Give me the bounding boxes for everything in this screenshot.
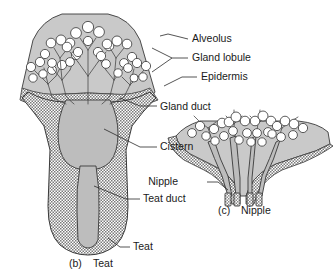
- alveolus: [102, 60, 111, 69]
- alveolus: [48, 59, 57, 68]
- alveolus: [35, 57, 44, 66]
- alveolus: [66, 58, 75, 67]
- alveolus: [195, 121, 204, 130]
- teat-duct-lumen: [77, 166, 99, 248]
- alveolus: [211, 137, 219, 145]
- alveolus: [298, 123, 307, 132]
- label-epidermis: Epidermis: [201, 70, 248, 82]
- alveolus: [40, 49, 49, 58]
- alveolus: [102, 39, 112, 49]
- alveolus: [83, 36, 92, 45]
- caption-c-text: Nipple: [241, 204, 271, 216]
- alveolus: [124, 64, 133, 73]
- alveolus: [122, 39, 132, 49]
- alveolus: [73, 47, 82, 56]
- alveolus: [277, 133, 286, 142]
- alveolus: [112, 36, 122, 46]
- alveolus: [29, 74, 37, 82]
- alveolus: [289, 119, 299, 129]
- label-gland-lobule: Gland lobule: [192, 51, 251, 63]
- caption-c-marker: (c): [218, 204, 230, 216]
- panel-teat: [20, 14, 158, 255]
- caption-b-text: Teat: [93, 257, 113, 269]
- alveolus: [289, 131, 298, 140]
- alveolus: [280, 116, 290, 126]
- alveolus: [141, 61, 150, 70]
- alveolus: [247, 138, 255, 146]
- label-alveolus: Alveolus: [192, 32, 232, 44]
- label-teat-duct: Teat duct: [143, 192, 186, 204]
- leader-gland-lobule: [152, 48, 188, 72]
- label-teat-leader: Teat: [133, 240, 153, 252]
- alveolus: [130, 74, 138, 82]
- panel-nipple: [168, 110, 333, 206]
- alveolus: [268, 130, 276, 138]
- alveolus: [46, 38, 56, 48]
- label-cistern: Cistern: [160, 140, 193, 152]
- alveolus: [235, 136, 243, 144]
- alveolus: [253, 129, 262, 138]
- leader-epidermis: [164, 77, 197, 86]
- alveolus: [94, 27, 105, 38]
- label-nipple: Nipple: [148, 175, 178, 187]
- alveolus: [39, 70, 47, 78]
- alveolus: [114, 69, 122, 77]
- alveolus: [220, 132, 229, 141]
- alveolus: [202, 132, 210, 140]
- caption-b-marker: (b): [69, 257, 82, 269]
- alveolus: [71, 28, 82, 39]
- anatomy-diagram: Alveolus Gland lobule Epidermis Gland du…: [0, 0, 335, 279]
- alveolus: [132, 58, 141, 67]
- alveolus: [188, 129, 197, 138]
- alveolus: [258, 138, 266, 146]
- label-gland-duct: Gland duct: [160, 100, 211, 112]
- alveolus: [62, 42, 72, 52]
- alveolus: [96, 51, 105, 60]
- alveolus: [240, 116, 250, 126]
- alveolus: [231, 112, 241, 122]
- alveolus: [139, 73, 147, 81]
- alveolus: [26, 62, 35, 71]
- alveolus: [209, 124, 218, 133]
- leader-alveolus: [160, 34, 188, 39]
- alveolus: [229, 127, 238, 136]
- figure-root: Alveolus Gland lobule Epidermis Gland du…: [0, 0, 335, 279]
- teat-cistern: [58, 100, 118, 170]
- alveolus: [243, 129, 252, 138]
- alveolus: [82, 21, 93, 32]
